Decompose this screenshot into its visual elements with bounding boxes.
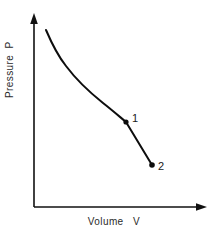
x-axis-label: Volume V	[34, 216, 194, 227]
y-axis-label: Pressure P	[4, 18, 18, 98]
pv-diagram-canvas: 1 2	[0, 0, 218, 238]
final-segment	[126, 122, 152, 165]
state-1-marker	[123, 119, 128, 124]
state-1-label: 1	[132, 112, 138, 124]
x-axis-arrow-icon	[196, 203, 207, 211]
state-2-label: 2	[158, 160, 164, 172]
state-2-marker	[149, 162, 155, 168]
pv-diagram-figure: 1 2 Pressure P Volume V	[0, 0, 218, 238]
y-axis-arrow-icon	[30, 13, 38, 24]
expansion-curve	[46, 30, 126, 122]
